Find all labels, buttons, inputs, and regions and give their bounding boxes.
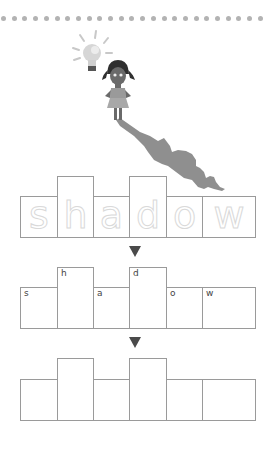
letter-label: d: [133, 268, 139, 278]
trace-box-d[interactable]: d: [129, 176, 167, 238]
lightbulb-icon: [73, 31, 112, 71]
trace-letter: s: [21, 195, 57, 235]
write-box-4[interactable]: [129, 358, 167, 421]
trace-letter: h: [58, 195, 93, 235]
illustration: [0, 0, 273, 200]
girl-figure: [102, 60, 135, 120]
trace-box-s[interactable]: s: [20, 196, 58, 238]
trace-letter: w: [203, 195, 255, 235]
letter-label: h: [61, 268, 67, 278]
copy-box-o[interactable]: o: [166, 287, 203, 329]
trace-box-o[interactable]: o: [166, 196, 203, 238]
trace-box-h[interactable]: h: [57, 176, 94, 238]
trace-box-w[interactable]: w: [202, 196, 256, 238]
write-box-1[interactable]: [20, 379, 58, 421]
letter-label: w: [206, 288, 213, 298]
letter-label: s: [24, 288, 29, 298]
letter-label: o: [170, 288, 176, 298]
down-arrow-icon: [129, 337, 141, 348]
copy-box-w[interactable]: w: [202, 287, 256, 329]
trace-letter: a: [94, 195, 129, 235]
copy-box-s[interactable]: s: [20, 287, 58, 329]
copy-box-h[interactable]: h: [57, 267, 94, 329]
write-box-2[interactable]: [57, 358, 94, 421]
trace-letter: o: [167, 195, 202, 235]
copy-box-d[interactable]: d: [129, 267, 167, 329]
copy-box-a[interactable]: a: [93, 287, 130, 329]
trace-letter: d: [130, 195, 166, 235]
write-box-5[interactable]: [166, 379, 203, 421]
write-box-3[interactable]: [93, 379, 130, 421]
down-arrow-icon: [129, 246, 141, 257]
letter-label: a: [97, 288, 103, 298]
write-box-6[interactable]: [202, 379, 256, 421]
trace-box-a[interactable]: a: [93, 196, 130, 238]
